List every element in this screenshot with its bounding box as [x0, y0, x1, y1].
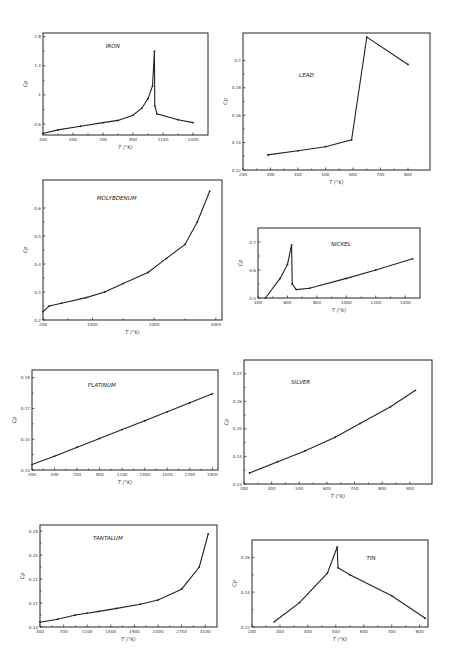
x-tick-label: 700	[388, 629, 396, 634]
data-point	[309, 287, 311, 289]
data-curve	[40, 534, 208, 622]
plot-frame	[43, 33, 208, 135]
data-point	[415, 389, 417, 391]
data-point	[349, 574, 351, 576]
data-point	[42, 311, 44, 313]
data-point	[156, 113, 158, 115]
x-tick-label: 500	[322, 172, 330, 177]
y-tick-label: 0.24	[241, 590, 251, 595]
data-point	[192, 122, 194, 124]
x-tick-label: 1300	[139, 472, 150, 477]
plot-frame	[43, 180, 222, 320]
data-point	[184, 244, 186, 246]
data-point	[117, 120, 119, 122]
y-tick-label: 0.16	[232, 113, 242, 118]
chart-title: IRON	[106, 43, 121, 49]
y-tick-label: 0.5	[249, 296, 256, 301]
data-point	[304, 450, 306, 452]
y-tick-label: 0.27	[233, 371, 243, 376]
data-point	[139, 603, 141, 605]
chart-nickel: 4006008001000120014000.50.60.7NICKELT (°…	[237, 228, 420, 313]
chart-tantalum: 3007001100150019002300270031000.130.170.…	[19, 525, 217, 642]
x-tick-label: 400	[254, 300, 262, 305]
data-point	[166, 258, 168, 260]
y-tick-label: 1.4	[34, 63, 41, 68]
x-tick-label: 1900	[207, 472, 218, 477]
data-point	[31, 464, 33, 466]
chart-iron: 300500700900110013000.611.41.8IRONT (°K)…	[22, 33, 208, 150]
y-tick-label: 0.26	[233, 399, 243, 404]
x-tick-label: 1400	[400, 300, 411, 305]
y-tick-label: 0.13	[21, 468, 31, 473]
data-point	[264, 297, 266, 299]
data-point	[299, 602, 301, 604]
chart-title: MOLYBDENUM	[97, 195, 137, 201]
x-tick-label: 1700	[184, 472, 195, 477]
y-axis-label: Cp	[222, 98, 229, 105]
data-point	[196, 221, 198, 223]
y-axis-label: Cp	[19, 573, 26, 580]
y-tick-label: 1.8	[34, 34, 41, 39]
data-curve	[43, 191, 210, 311]
x-tick-label: 700	[351, 486, 359, 491]
data-point	[407, 64, 409, 66]
data-point	[297, 150, 299, 152]
data-point	[249, 472, 251, 474]
data-point	[48, 305, 50, 307]
x-axis-label: T (°K)	[333, 636, 347, 642]
data-point	[61, 302, 63, 304]
x-tick-label: 1000	[87, 322, 98, 327]
y-tick-label: 0.6	[249, 268, 256, 273]
plot-frame	[32, 370, 218, 470]
x-tick-label: 1000	[341, 300, 352, 305]
figure-canvas: 300500700900110013000.611.41.8IRONT (°K)…	[0, 0, 455, 672]
y-axis-label: Cp	[223, 419, 230, 426]
x-tick-label: 600	[323, 486, 331, 491]
x-tick-label: 800	[313, 300, 321, 305]
data-point	[211, 393, 213, 395]
data-point	[157, 599, 159, 601]
chart-title: SILVER	[291, 379, 310, 385]
y-tick-label: 0.2	[34, 318, 41, 323]
x-tick-label: 400	[268, 486, 276, 491]
x-tick-label: 3100	[200, 629, 211, 634]
data-point	[147, 98, 149, 100]
x-tick-label: 900	[129, 137, 137, 142]
x-tick-label: 1500	[105, 629, 116, 634]
y-tick-label: 0.24	[233, 454, 243, 459]
data-point	[99, 438, 101, 440]
data-point	[42, 133, 44, 135]
data-point	[122, 283, 124, 285]
data-point	[86, 612, 88, 614]
y-axis-label: Cp	[22, 81, 29, 88]
data-point	[391, 595, 393, 597]
data-point	[116, 608, 118, 610]
data-point	[375, 269, 377, 271]
x-axis-label: T (°K)	[118, 144, 132, 150]
y-axis-label: Cp	[231, 580, 238, 587]
x-tick-label: 700	[60, 629, 68, 634]
data-point	[76, 446, 78, 448]
y-axis-label: Cp	[11, 417, 18, 424]
data-point	[424, 617, 426, 619]
y-axis-label: Cp	[237, 260, 244, 267]
chart-silver: 3004005006007008009000.230.240.250.260.2…	[223, 360, 432, 499]
x-tick-label: 1100	[117, 472, 128, 477]
x-tick-label: 300	[267, 172, 275, 177]
plot-frame	[258, 228, 420, 298]
data-point	[80, 125, 82, 127]
data-point	[334, 436, 336, 438]
x-tick-label: 400	[304, 629, 312, 634]
data-point	[287, 264, 289, 266]
x-tick-label: 1900	[129, 629, 140, 634]
data-point	[57, 129, 59, 131]
y-tick-label: 1	[38, 92, 41, 97]
data-point	[98, 611, 100, 613]
data-point	[279, 278, 281, 280]
x-tick-label: 700	[99, 137, 107, 142]
data-point	[351, 139, 353, 141]
data-point	[166, 411, 168, 413]
data-point	[177, 119, 179, 121]
x-tick-label: 2700	[176, 629, 187, 634]
data-point	[336, 546, 338, 548]
